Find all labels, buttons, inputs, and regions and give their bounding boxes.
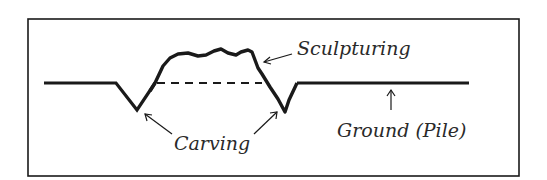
carving-arrow-right	[254, 112, 277, 134]
carving-sculpturing-diagram	[0, 0, 547, 180]
ground-arrow	[387, 90, 395, 110]
ground-pile-label: Ground (Pile)	[337, 121, 466, 140]
frame-border	[28, 19, 519, 176]
carving-arrow-left	[145, 114, 172, 134]
carving-label: Carving	[174, 134, 250, 153]
ground-line-left	[44, 83, 155, 110]
sculpturing-arrow	[264, 54, 292, 64]
sculpturing-label: Sculpturing	[297, 39, 411, 58]
